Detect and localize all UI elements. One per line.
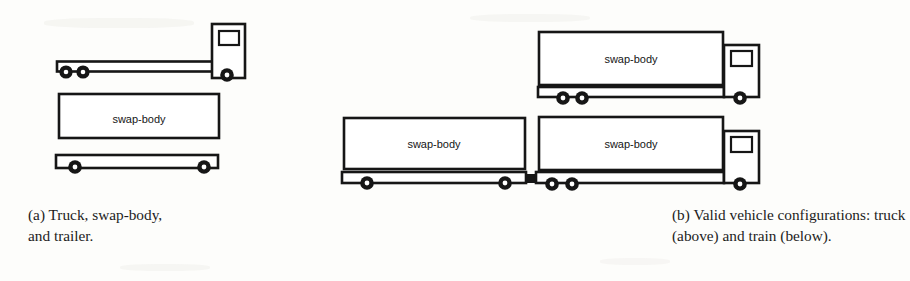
subfigure-b-diagram: swap-body swap-body <box>330 0 793 200</box>
caption-b-tag: (b) <box>672 206 690 223</box>
truck-configuration: swap-body <box>538 32 759 105</box>
wheel-hub <box>64 70 69 75</box>
subfigure-b: swap-body swap-body <box>330 0 793 281</box>
caption-a: (a) Truck, swap-body, and trailer. <box>28 204 292 246</box>
wheel-hub <box>561 96 566 101</box>
wheel-hub <box>365 181 370 186</box>
caption-b-word: Valid <box>693 206 725 223</box>
truck-cab-window <box>731 51 752 66</box>
caption-a-tag: (a) <box>28 206 45 223</box>
truck-cab-window <box>219 31 239 45</box>
train-truck-unit: swap-body <box>536 117 759 191</box>
swap-body-label-b2: swap-body <box>407 138 461 150</box>
truck-chassis-bar <box>536 172 724 183</box>
wheel-hub <box>570 182 575 187</box>
wheel-hub <box>81 70 86 75</box>
trailer-empty <box>56 155 218 174</box>
wheel-hub <box>503 181 508 186</box>
wheel-hub <box>738 96 743 101</box>
swap-body-detached: swap-body <box>59 94 219 138</box>
wheel-hub <box>738 182 743 187</box>
wheel-hub <box>202 165 207 170</box>
truck-empty <box>57 24 245 82</box>
caption-b-word: vehicle <box>730 206 774 223</box>
caption-a-word: swap-body, <box>92 206 162 223</box>
wheel-hub <box>225 73 230 78</box>
caption-a-line-2: and trailer. <box>28 225 292 246</box>
coupling-link <box>525 174 536 183</box>
caption-b-line-1: (b) Valid vehicle configurations: truck <box>672 204 910 225</box>
wheel-hub <box>550 182 555 187</box>
caption-b-word: configurations: <box>778 206 871 223</box>
wheel-hub <box>580 96 585 101</box>
swap-body-label-a1: swap-body <box>112 113 166 125</box>
wheel-hub <box>73 165 78 170</box>
caption-a-line-1: (a) Truck, swap-body, <box>28 204 292 225</box>
swap-body-label-b3: swap-body <box>604 138 658 150</box>
caption-b: (b) Valid vehicle configurations: truck … <box>672 204 910 246</box>
caption-b-line-2: (above) and train (below). <box>672 225 910 246</box>
caption-a-word: Truck, <box>49 206 89 223</box>
subfigure-a: swap-body (a) Truck, swap-body, and trai… <box>0 0 330 281</box>
caption-b-word: truck <box>874 206 905 223</box>
swap-body-label-b1: swap-body <box>604 53 658 65</box>
subfigure-a-diagram: swap-body <box>0 0 330 200</box>
train-trailer-unit: swap-body <box>342 118 526 190</box>
truck-cab-window <box>731 137 752 152</box>
train-configuration: swap-body swap-body <box>342 117 759 191</box>
